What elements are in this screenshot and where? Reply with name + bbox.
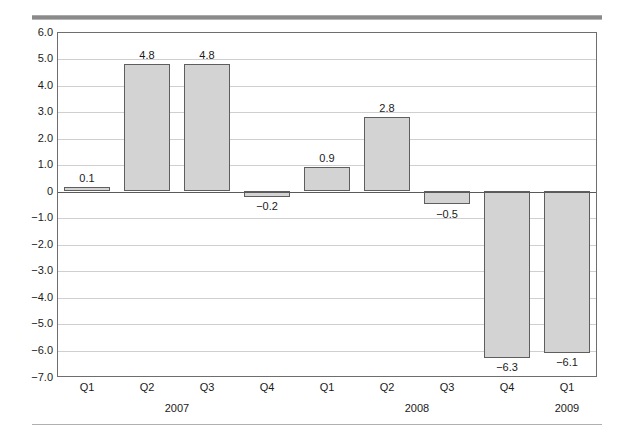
bottom-rule <box>32 424 602 425</box>
zero-line <box>58 192 596 193</box>
bar[interactable] <box>364 117 410 191</box>
y-axis-tick: 5.0 <box>3 53 53 64</box>
y-axis-tick: −5.0 <box>3 318 53 329</box>
y-axis-tick: 1.0 <box>3 159 53 170</box>
x-axis-tick: Q1 <box>537 381 597 393</box>
bar-series: 0.14.84.8−0.20.92.8−0.5−6.3−6.1 <box>57 32 597 377</box>
x-axis-tick: Q1 <box>297 381 357 393</box>
bar[interactable] <box>64 187 110 191</box>
bar[interactable] <box>544 191 590 353</box>
bar-value-label: −0.2 <box>237 201 297 212</box>
x-axis-tick-labels: Q1Q2Q3Q4Q1Q2Q3Q4Q1 <box>57 381 597 401</box>
x-axis-tick: Q3 <box>177 381 237 393</box>
year-label: 2008 <box>297 402 537 414</box>
x-axis-tick: Q4 <box>477 381 537 393</box>
bar-value-label: 4.8 <box>117 50 177 61</box>
y-axis-tick: −1.0 <box>3 212 53 223</box>
x-axis-group-labels: 200720082009 <box>57 402 597 420</box>
y-axis-tick: 2.0 <box>3 133 53 144</box>
x-axis-tick: Q2 <box>357 381 417 393</box>
x-axis-tick: Q4 <box>237 381 297 393</box>
year-label: 2009 <box>537 402 597 414</box>
bar-value-label: −0.5 <box>417 209 477 220</box>
bar-value-label: −6.1 <box>537 357 597 368</box>
y-axis-tick: 0 <box>3 186 53 197</box>
bar[interactable] <box>304 167 350 191</box>
y-axis-tick: −3.0 <box>3 265 53 276</box>
bar[interactable] <box>184 64 230 191</box>
top-rule <box>32 15 602 20</box>
y-axis-tick: −2.0 <box>3 239 53 250</box>
y-axis-tick: −4.0 <box>3 292 53 303</box>
y-axis-tick: 6.0 <box>3 27 53 38</box>
x-axis-tick: Q3 <box>417 381 477 393</box>
y-axis-tick: −6.0 <box>3 345 53 356</box>
bar-value-label: 0.1 <box>57 173 117 184</box>
y-axis-tick: 4.0 <box>3 80 53 91</box>
bar[interactable] <box>484 191 530 358</box>
y-axis-tick-labels: 6.05.04.03.02.01.00−1.0−2.0−3.0−4.0−5.0−… <box>0 32 53 377</box>
year-label: 2007 <box>57 402 297 414</box>
y-axis-tick: 3.0 <box>3 106 53 117</box>
bar-value-label: 4.8 <box>177 50 237 61</box>
x-axis-tick: Q1 <box>57 381 117 393</box>
bar-value-label: 0.9 <box>297 153 357 164</box>
y-axis-tick: −7.0 <box>3 372 53 383</box>
bar[interactable] <box>124 64 170 191</box>
bar-value-label: 2.8 <box>357 103 417 114</box>
bar[interactable] <box>424 191 470 204</box>
bar-value-label: −6.3 <box>477 362 537 373</box>
x-axis-tick: Q2 <box>117 381 177 393</box>
figure: 6.05.04.03.02.01.00−1.0−2.0−3.0−4.0−5.0−… <box>0 0 621 445</box>
